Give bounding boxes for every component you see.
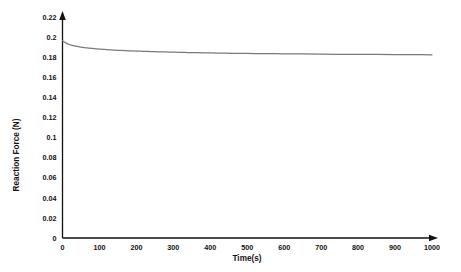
y-tick-label: 0.22 (43, 13, 57, 22)
reaction-force-vs-time-chart: 00.020.040.060.080.10.120.140.160.180.20… (0, 0, 461, 272)
y-tick-label: 0.08 (43, 153, 57, 162)
x-tick-label: 300 (167, 243, 179, 252)
y-tick-label: 0.1 (47, 133, 57, 142)
y-tick-label: 0.04 (43, 194, 57, 203)
x-tick-label: 0 (61, 243, 65, 252)
x-tick-label: 100 (93, 243, 105, 252)
y-tick-label: 0.16 (43, 73, 57, 82)
y-tick-label: 0.02 (43, 214, 57, 223)
x-tick-label: 500 (241, 243, 253, 252)
x-tick-label: 800 (352, 243, 364, 252)
x-tick-label: 700 (315, 243, 327, 252)
y-tick-label: 0.2 (47, 33, 57, 42)
x-tick-label: 600 (278, 243, 290, 252)
y-tick-label: 0.06 (43, 173, 57, 182)
y-tick-label: 0.12 (43, 113, 57, 122)
chart-background (0, 0, 461, 272)
x-axis-title: Time(s) (233, 254, 262, 263)
chart-canvas: 00.020.040.060.080.10.120.140.160.180.20… (0, 0, 461, 272)
y-tick-label: 0.14 (43, 93, 57, 102)
x-tick-label: 1000 (424, 243, 440, 252)
y-tick-label: 0 (53, 234, 57, 243)
y-tick-label: 0.18 (43, 53, 57, 62)
y-axis-title: Reaction Force (N) (12, 118, 21, 191)
x-tick-label: 200 (130, 243, 142, 252)
x-tick-label: 900 (389, 243, 401, 252)
x-tick-label: 400 (204, 243, 216, 252)
